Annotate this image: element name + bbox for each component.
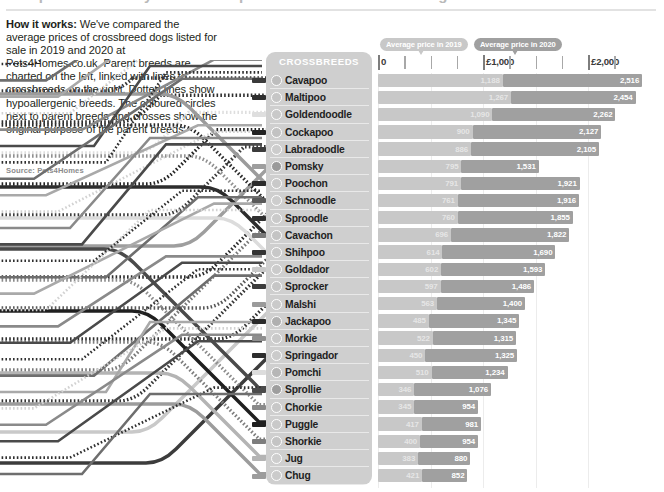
bar-row[interactable]: 421852 bbox=[374, 467, 664, 484]
crossbreed-row[interactable]: Goldendoodle bbox=[266, 106, 372, 123]
parent-link-stub bbox=[252, 181, 266, 186]
crossbreed-row[interactable]: Sproodle bbox=[266, 210, 372, 227]
crossbreed-row[interactable]: Cavapoo bbox=[266, 72, 372, 89]
bar-value-2020: 954 bbox=[462, 402, 478, 411]
bar-row[interactable]: 1,2672,454 bbox=[374, 89, 664, 106]
bar-value-2020: 1,690 bbox=[533, 248, 555, 257]
bar-value-2019: 346 bbox=[398, 385, 414, 394]
parent-link-stub bbox=[252, 198, 266, 203]
bar-row[interactable]: 7601,855 bbox=[374, 210, 664, 227]
crossbreed-row[interactable]: Cavachon bbox=[266, 227, 372, 244]
parent-link-line bbox=[0, 267, 272, 432]
bar-value-2020: 2,454 bbox=[613, 93, 635, 102]
bar-row[interactable]: 5631,400 bbox=[374, 295, 664, 312]
crossbreed-row[interactable]: Sprocker bbox=[266, 278, 372, 295]
bar-row[interactable]: 7611,916 bbox=[374, 192, 664, 209]
bar-2020: 880 bbox=[418, 452, 470, 465]
parent-link-stub bbox=[252, 439, 266, 444]
crossbreed-row[interactable]: Pomchi bbox=[266, 364, 372, 381]
bar-2019: 614 bbox=[378, 245, 442, 258]
breed-purpose-dot-icon bbox=[271, 127, 282, 138]
breed-purpose-dot-icon bbox=[271, 367, 282, 378]
bar-row[interactable]: 5221,315 bbox=[374, 330, 664, 347]
bar-row[interactable]: 7951,531 bbox=[374, 158, 664, 175]
bar-row[interactable]: 417981 bbox=[374, 416, 664, 433]
bar-value-2020: 852 bbox=[452, 471, 468, 480]
bar-row[interactable]: 8862,105 bbox=[374, 141, 664, 158]
parent-link-line bbox=[0, 164, 272, 246]
crossbreed-row[interactable]: Sprollie bbox=[266, 381, 372, 398]
crossbreed-name: Cockapoo bbox=[285, 127, 333, 138]
bar-row[interactable]: 1,0902,262 bbox=[374, 106, 664, 123]
bar-value-2020: 1,855 bbox=[551, 213, 573, 222]
crossbreed-row[interactable]: Labradoodle bbox=[266, 141, 372, 158]
bar-row[interactable]: 6141,690 bbox=[374, 244, 664, 261]
breed-purpose-dot-icon bbox=[271, 281, 282, 292]
bar-2019: 791 bbox=[378, 177, 461, 190]
bar-value-2019: 383 bbox=[402, 454, 418, 463]
crossbreed-row[interactable]: Morkie bbox=[266, 330, 372, 347]
crossbreed-row[interactable]: Maltipoo bbox=[266, 89, 372, 106]
bar-value-2019: 1,188 bbox=[480, 76, 502, 85]
bar-value-2019: 417 bbox=[406, 420, 422, 429]
crossbreeds-panel: CROSSBREEDS CavapooMaltipooGoldendoodleC… bbox=[266, 52, 372, 485]
bar-value-2019: 696 bbox=[435, 230, 451, 239]
breed-purpose-dot-icon bbox=[271, 316, 282, 327]
crossbreed-row[interactable]: Shihpoo bbox=[266, 244, 372, 261]
crossbreed-row[interactable]: Springador bbox=[266, 347, 372, 364]
crossbreed-row[interactable]: Schnoodle bbox=[266, 192, 372, 209]
bar-value-2020: 2,105 bbox=[577, 145, 599, 154]
crossbreed-name: Sprollie bbox=[285, 384, 321, 395]
bar-row[interactable]: 4851,345 bbox=[374, 313, 664, 330]
bar-value-2019: 900 bbox=[457, 127, 473, 136]
parent-link-stub bbox=[252, 422, 266, 427]
crossbreed-row[interactable]: Puggle bbox=[266, 416, 372, 433]
bar-row[interactable]: 345954 bbox=[374, 399, 664, 416]
bar-2020: 1,921 bbox=[461, 177, 580, 190]
bar-value-2019: 400 bbox=[404, 437, 420, 446]
bar-row[interactable]: 400954 bbox=[374, 433, 664, 450]
crossbreed-name: Malshi bbox=[285, 299, 316, 310]
bar-value-2019: 421 bbox=[406, 471, 422, 480]
bar-2019: 450 bbox=[378, 349, 425, 362]
bar-2019: 761 bbox=[378, 194, 458, 207]
crossbreed-row[interactable]: Jug bbox=[266, 450, 372, 467]
crossbreed-row[interactable]: Malshi bbox=[266, 295, 372, 312]
crossbreed-row[interactable]: Cockapoo bbox=[266, 124, 372, 141]
parent-link-stub bbox=[252, 112, 266, 117]
crossbreed-row[interactable]: Goldador bbox=[266, 261, 372, 278]
bar-value-2020: 1,076 bbox=[469, 385, 491, 394]
bar-row[interactable]: 6021,593 bbox=[374, 261, 664, 278]
bar-row[interactable]: 3461,076 bbox=[374, 381, 664, 398]
crossbreed-row[interactable]: Poochon bbox=[266, 175, 372, 192]
breed-purpose-dot-icon bbox=[271, 213, 282, 224]
bar-row[interactable]: 383880 bbox=[374, 450, 664, 467]
bar-2019: 795 bbox=[378, 160, 461, 173]
crossbreed-name: Pomchi bbox=[285, 367, 321, 378]
parent-link-stub bbox=[252, 456, 266, 461]
bar-row[interactable]: 5101,234 bbox=[374, 364, 664, 381]
parent-link-stub bbox=[252, 130, 266, 135]
bar-2020: 1,400 bbox=[437, 297, 525, 310]
breed-purpose-dot-icon bbox=[271, 161, 282, 172]
crossbreed-row[interactable]: Pomsky bbox=[266, 158, 372, 175]
crossbreed-row[interactable]: Jackapoo bbox=[266, 313, 372, 330]
bar-value-2020: 1,400 bbox=[503, 299, 525, 308]
bar-row[interactable]: 5971,486 bbox=[374, 278, 664, 295]
bar-row[interactable]: 1,1882,516 bbox=[374, 72, 664, 89]
crossbreed-row[interactable]: Shorkie bbox=[266, 433, 372, 450]
bar-row[interactable]: 4501,325 bbox=[374, 347, 664, 364]
bar-2019: 345 bbox=[378, 400, 414, 413]
crossbreed-row[interactable]: Chug bbox=[266, 467, 372, 484]
bar-value-2019: 450 bbox=[409, 351, 425, 360]
axis-tick-major bbox=[378, 55, 380, 70]
parent-link-stub bbox=[252, 474, 266, 479]
crossbreed-row[interactable]: Chorkie bbox=[266, 399, 372, 416]
bar-2019: 346 bbox=[378, 383, 414, 396]
bar-2019: 696 bbox=[378, 228, 451, 241]
breed-purpose-dot-icon bbox=[271, 453, 282, 464]
bar-row[interactable]: 6961,822 bbox=[374, 227, 664, 244]
bar-row[interactable]: 9002,127 bbox=[374, 124, 664, 141]
bar-row[interactable]: 7911,921 bbox=[374, 175, 664, 192]
breed-purpose-dot-icon bbox=[271, 402, 282, 413]
